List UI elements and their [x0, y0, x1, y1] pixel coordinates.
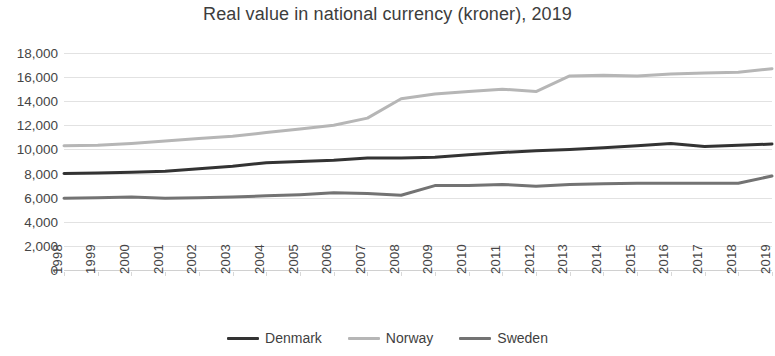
- legend-item-norway[interactable]: Norway: [348, 330, 433, 346]
- y-axis-tick-label: 16,000: [0, 70, 58, 85]
- x-axis-tick-label: 2009: [420, 244, 435, 274]
- x-axis-tick-label: 2010: [454, 244, 469, 274]
- x-axis-tick-label: 2006: [319, 244, 334, 274]
- chart-title: Real value in national currency (kroner)…: [0, 4, 775, 25]
- x-axis-tick-label: 2018: [723, 244, 738, 274]
- x-axis-labels: 1998199920002001200220032004200520062007…: [64, 272, 772, 324]
- x-axis-tick-mark: [705, 272, 706, 276]
- y-axis-tick-label: 18,000: [0, 46, 58, 61]
- plot-area: [64, 53, 772, 270]
- series-line-sweden: [64, 176, 772, 198]
- x-axis-tick-mark: [367, 272, 368, 276]
- x-axis-tick-mark: [603, 272, 604, 276]
- x-axis-tick-label: 1999: [83, 244, 98, 274]
- x-axis-tick-mark: [98, 272, 99, 276]
- chart-legend: DenmarkNorwaySweden: [0, 330, 775, 346]
- x-axis-tick-mark: [334, 272, 335, 276]
- line-chart: Real value in national currency (kroner)…: [0, 0, 775, 356]
- legend-label: Denmark: [265, 330, 322, 346]
- legend-swatch-icon: [459, 337, 491, 340]
- x-axis-tick-label: 2015: [622, 244, 637, 274]
- x-axis-tick-mark: [570, 272, 571, 276]
- x-axis-tick-label: 2012: [521, 244, 536, 274]
- x-axis-tick-mark: [435, 272, 436, 276]
- x-axis-tick-mark: [131, 272, 132, 276]
- legend-item-sweden[interactable]: Sweden: [459, 330, 548, 346]
- y-axis-tick-label: 12,000: [0, 118, 58, 133]
- x-axis-tick-label: 2007: [352, 244, 367, 274]
- legend-label: Sweden: [497, 330, 548, 346]
- y-axis-tick-label: 10,000: [0, 142, 58, 157]
- x-axis-tick-label: 2013: [555, 244, 570, 274]
- y-axis-labels: 18,00016,00014,00012,00010,0008,0006,000…: [0, 53, 58, 270]
- legend-swatch-icon: [348, 337, 380, 340]
- series-line-norway: [64, 69, 772, 146]
- x-axis-tick-mark: [199, 272, 200, 276]
- x-axis-tick-label: 2003: [218, 244, 233, 274]
- legend-item-denmark[interactable]: Denmark: [227, 330, 322, 346]
- x-axis-tick-label: 1998: [49, 244, 64, 274]
- series-layer: [64, 53, 772, 270]
- x-axis-tick-label: 2017: [690, 244, 705, 274]
- x-axis-tick-label: 2014: [588, 244, 603, 274]
- x-axis-tick-mark: [671, 272, 672, 276]
- y-axis-tick-label: 14,000: [0, 94, 58, 109]
- legend-label: Norway: [386, 330, 433, 346]
- x-axis-tick-label: 2016: [656, 244, 671, 274]
- x-axis-tick-label: 2008: [386, 244, 401, 274]
- y-axis-tick-label: 6,000: [0, 190, 58, 205]
- x-axis-tick-mark: [469, 272, 470, 276]
- x-axis-tick-label: 2011: [487, 245, 502, 274]
- x-axis-tick-label: 2019: [757, 244, 772, 274]
- x-axis-tick-label: 2005: [285, 244, 300, 274]
- x-axis-tick-label: 2002: [184, 244, 199, 274]
- legend-swatch-icon: [227, 337, 259, 340]
- series-line-denmark: [64, 143, 772, 173]
- y-axis-tick-label: 4,000: [0, 214, 58, 229]
- x-axis-tick-mark: [233, 272, 234, 276]
- x-axis-tick-label: 2004: [251, 244, 266, 274]
- x-axis-tick-label: 2000: [116, 244, 131, 274]
- y-axis-tick-label: 8,000: [0, 166, 58, 181]
- x-axis-tick-label: 2001: [150, 244, 165, 274]
